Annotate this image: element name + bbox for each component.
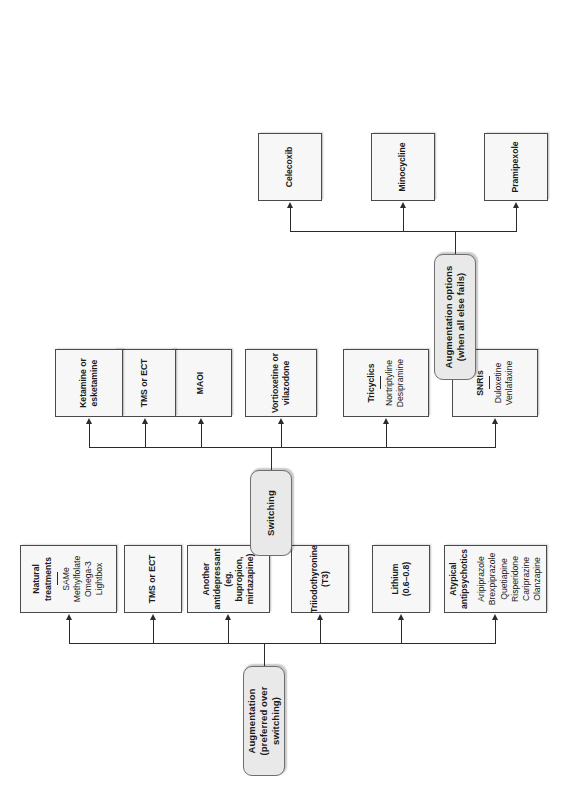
node-item: SAMe — [61, 567, 72, 590]
node-item: Nortriptyline — [384, 360, 395, 406]
connector-last-resort-1 — [403, 208, 404, 232]
connector-spine-switching — [89, 447, 495, 448]
node-item: Quetiapine — [499, 558, 510, 600]
node-vortioxetine-vilazodone[interactable]: Vortioxetine or vilazodone — [245, 349, 317, 417]
connector-trunk-last-resort — [455, 232, 456, 254]
node-item: Duloxetine — [493, 363, 504, 404]
connector-augmentation-0 — [495, 620, 496, 644]
branch-header-line2: (when all else fails) — [455, 273, 467, 362]
node-tms-or-ect-augmentation[interactable]: TMS or ECT — [124, 545, 182, 613]
node-item: Risperidone — [510, 556, 521, 602]
arrowhead-switching-4 — [142, 418, 148, 424]
connector-trunk-augmentation — [264, 644, 265, 666]
arrowhead-last-resort-2 — [287, 202, 293, 208]
node-item: Methylfolate — [72, 556, 83, 602]
node-item: mirtazapine) — [245, 554, 256, 605]
node-title: TMS or ECT — [139, 359, 150, 408]
branch-header-line1: Augmentation options — [443, 266, 455, 369]
node-title: Ketamine or — [78, 358, 89, 408]
node-separator — [380, 377, 381, 390]
branch-header-augmentation-last-resort[interactable]: Augmentation options (when all else fail… — [434, 254, 476, 380]
node-item: vilazodone — [281, 361, 292, 405]
node-title: Pramipexole — [510, 141, 521, 192]
node-item: Olanzapine — [532, 557, 543, 600]
node-item: Venlafaxine — [504, 361, 515, 405]
node-item: Omega-3 — [83, 561, 94, 597]
node-tms-or-ect-switching[interactable]: TMS or ECT — [114, 349, 176, 417]
node-atypical-antipsychotics[interactable]: Atypical antipsychotics Aripiprazole Bre… — [444, 545, 547, 613]
node-title: TMS or ECT — [147, 555, 158, 604]
node-title: Atypical antipsychotics — [448, 549, 470, 609]
node-title: Tricyclics — [366, 363, 377, 402]
node-title: Vortioxetine or — [270, 353, 281, 413]
node-pramipexole[interactable]: Pramipexole — [484, 133, 548, 201]
node-title: Another — [201, 563, 212, 596]
branch-header-line1: Switching — [265, 490, 277, 536]
branch-header-switching[interactable]: Switching — [250, 470, 292, 556]
node-item: (T3) — [320, 571, 331, 587]
branch-header-line2: (preferred over switching) — [258, 671, 282, 771]
node-title: Minocycline — [397, 142, 408, 191]
connector-augmentation-1 — [401, 620, 402, 644]
connector-augmentation-3 — [228, 620, 229, 644]
arrowhead-augmentation-1 — [398, 614, 404, 620]
arrowhead-augmentation-5 — [66, 614, 72, 620]
node-lithium[interactable]: Lithium (0.6–0.8) — [372, 545, 430, 613]
branch-header-augmentation[interactable]: Augmentation (preferred over switching) — [243, 666, 285, 776]
connector-switching-3 — [201, 424, 202, 448]
arrowhead-augmentation-0 — [492, 614, 498, 620]
node-item: (eg. bupropion, — [223, 549, 245, 609]
arrowhead-switching-0 — [492, 418, 498, 424]
arrowhead-switching-3 — [198, 418, 204, 424]
node-natural-treatments[interactable]: Natural treatments SAMe Methylfolate Ome… — [20, 545, 117, 613]
connector-last-resort-0 — [516, 208, 517, 232]
node-item: antidepressant — [212, 548, 223, 609]
node-item: Desipramine — [395, 359, 406, 407]
arrowhead-switching-2 — [278, 418, 284, 424]
node-title: Celecoxib — [284, 147, 295, 188]
connector-switching-2 — [281, 424, 282, 448]
node-separator — [57, 573, 58, 586]
connector-augmentation-4 — [153, 620, 154, 644]
node-tricyclics[interactable]: Tricyclics Nortriptyline Desipramine — [343, 349, 429, 417]
node-minocycline[interactable]: Minocycline — [371, 133, 435, 201]
node-title: Triiodothyronine — [309, 545, 320, 613]
branch-header-line1: Augmentation — [246, 688, 258, 753]
arrowhead-augmentation-4 — [150, 614, 156, 620]
node-triiodothyronine[interactable]: Triiodothyronine (T3) — [291, 545, 349, 613]
connector-last-resort-2 — [290, 208, 291, 232]
node-item: Brexpiprazole — [487, 553, 498, 606]
connector-switching-1 — [386, 424, 387, 448]
connector-augmentation-2 — [320, 620, 321, 644]
node-title: SNRIs — [475, 370, 486, 395]
node-item: Lightbox — [94, 563, 105, 596]
connector-trunk-switching — [271, 448, 272, 470]
node-title: Natural treatments — [31, 549, 53, 609]
arrowhead-switching-1 — [383, 418, 389, 424]
diagram-canvas: Augmentation (preferred over switching) … — [0, 0, 565, 790]
connector-augmentation-5 — [69, 620, 70, 644]
node-maoi[interactable]: MAOI — [170, 349, 232, 417]
node-item: Cariprazine — [521, 557, 532, 601]
node-item: (0.6–0.8) — [401, 562, 412, 596]
node-item: Aripiprazole — [476, 556, 487, 601]
arrowhead-augmentation-2 — [317, 614, 323, 620]
node-ketamine-esketamine[interactable]: Ketamine or esketamine — [55, 349, 123, 417]
node-title: MAOI — [195, 372, 206, 394]
connector-switching-4 — [145, 424, 146, 448]
connector-switching-0 — [495, 424, 496, 448]
connector-switching-5 — [89, 424, 90, 448]
arrowhead-last-resort-0 — [513, 202, 519, 208]
node-celecoxib[interactable]: Celecoxib — [258, 133, 322, 201]
arrowhead-last-resort-1 — [400, 202, 406, 208]
node-title: Lithium — [390, 563, 401, 594]
connector-spine-augmentation — [69, 643, 495, 644]
arrowhead-switching-5 — [86, 418, 92, 424]
node-item: esketamine — [89, 360, 100, 407]
node-separator — [489, 377, 490, 390]
arrowhead-augmentation-3 — [225, 614, 231, 620]
